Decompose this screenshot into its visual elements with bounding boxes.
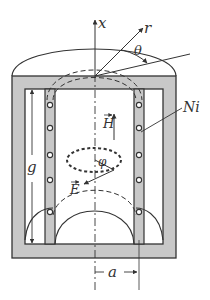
radius-label: a [108,263,117,281]
h-label: H [102,116,115,131]
x-axis-label: x [98,14,107,32]
current-label: Ni [182,99,200,115]
theta-label: θ [134,43,142,58]
gap-label: g [27,158,37,176]
phi-label: φ [98,155,107,169]
r-label: r [144,19,152,37]
diagram-canvas: x r θ Ni H φ E g a [0,0,210,300]
e-label: E [69,182,80,197]
